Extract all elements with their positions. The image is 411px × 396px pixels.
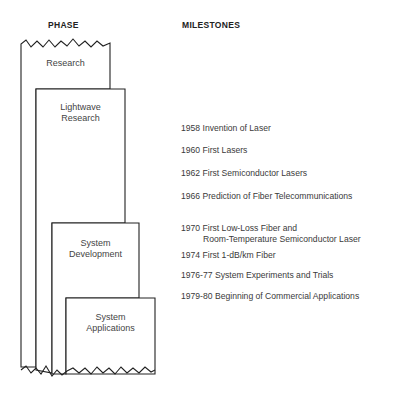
milestone-1960: 1960 First Lasers [181, 145, 247, 156]
milestone-1958: 1958 Invention of Laser [181, 123, 271, 134]
milestone-1976-77: 1976-77 System Experiments and Trials [181, 270, 333, 281]
milestone-year: 1966 [181, 191, 200, 202]
sysdev-label-line2: Development [69, 249, 122, 259]
system-applications-box [66, 298, 155, 374]
phase-label-research: Research [21, 58, 110, 69]
milestone-text: First Lasers [203, 145, 248, 155]
milestone-text: First Semiconductor Lasers [203, 168, 308, 178]
milestone-year: 1974 [181, 250, 200, 261]
milestone-text: System Experiments and Trials [215, 270, 333, 280]
milestone-text: Invention of Laser [203, 123, 271, 133]
milestone-1962: 1962 First Semiconductor Lasers [181, 168, 307, 179]
milestone-text: First Low-Loss Fiber and [203, 223, 298, 233]
research-label: Research [46, 58, 85, 68]
milestone-year: 1960 [181, 145, 200, 156]
milestone-text-line2: Room-Temperature Semiconductor Laser [181, 234, 361, 245]
milestone-text: Prediction of Fiber Telecommunications [203, 191, 353, 201]
milestone-year: 1962 [181, 168, 200, 179]
milestone-1970: 1970 First Low-Loss Fiber and Room-Tempe… [181, 223, 361, 245]
sysdev-label-line1: System [80, 238, 110, 248]
sysapp-label-line2: Applications [86, 323, 135, 333]
milestone-1979-80: 1979-80 Beginning of Commercial Applicat… [181, 291, 359, 302]
phase-label-system-applications: System Applications [66, 312, 155, 334]
phase-label-lightwave-research: Lightwave Research [36, 102, 125, 124]
phase-label-system-development: System Development [52, 238, 139, 260]
lightwave-label-line1: Lightwave [60, 102, 101, 112]
milestone-text: First 1-dB/km Fiber [203, 250, 276, 260]
milestone-year: 1970 [181, 223, 200, 234]
lightwave-label-line2: Research [61, 113, 100, 123]
sysapp-label-line1: System [95, 312, 125, 322]
milestone-1974: 1974 First 1-dB/km Fiber [181, 250, 276, 261]
milestone-year: 1958 [181, 123, 200, 134]
milestone-text: Beginning of Commercial Applications [215, 291, 359, 301]
milestone-1966: 1966 Prediction of Fiber Telecommunicati… [181, 191, 352, 202]
milestone-year: 1976-77 [181, 270, 213, 281]
milestone-year: 1979-80 [181, 291, 213, 302]
